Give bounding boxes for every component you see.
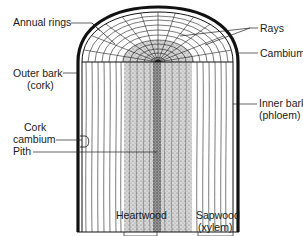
label-sapwood: Sapwood (196, 210, 240, 221)
label-cork: Cork (24, 122, 46, 133)
label-cork-cambium: cambium (13, 134, 56, 145)
trunk-illustration (0, 0, 303, 236)
label-inner-bark: Inner bark (259, 98, 303, 109)
sapwood-grain-left (86, 62, 122, 232)
label-rays: Rays (260, 23, 284, 34)
label-inner-bark-phloem: (phloem) (259, 110, 300, 121)
label-cambium: Cambium (260, 48, 303, 59)
sapwood-grain-right (197, 62, 227, 232)
label-annual-rings: Annual rings (13, 17, 71, 28)
label-heartwood: Heartwood (116, 210, 167, 221)
label-pith: Pith (13, 146, 31, 157)
tree-trunk-diagram: Annual rings Rays Cambium Outer bark (co… (0, 0, 303, 236)
label-sapwood-xylem: (xylem) (198, 222, 232, 233)
label-outer-bark-cork: (cork) (27, 80, 54, 91)
label-outer-bark: Outer bark (13, 68, 63, 79)
cork-cambium-marker (80, 136, 89, 147)
pith-column (153, 62, 161, 232)
